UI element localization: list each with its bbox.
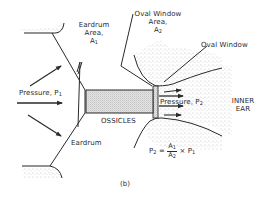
upper-canal-wall (20, 23, 64, 33)
ossicles-label: OSSICLES (101, 117, 136, 125)
oval-window-area-line2: Area, (130, 18, 186, 26)
pressure-formula: P2 = A1 A2 × P1 (149, 143, 195, 160)
ossicles (86, 90, 153, 113)
oval-window-label: Oval Window (201, 41, 248, 49)
eardrum-label: Eardrum (71, 139, 102, 147)
eardrum-area-symbol: A1 (72, 37, 116, 46)
incoming-pressure-arrows (17, 66, 62, 136)
oval-window-area-symbol: A2 (130, 26, 186, 35)
pressure-out-label: Pressure, P2 (160, 98, 203, 107)
inner-ear-label: INNER EAR (228, 97, 258, 113)
panel-label: (b) (120, 180, 130, 188)
inner-ear-line2: EAR (228, 105, 258, 113)
lower-canal-wall (22, 166, 62, 178)
area-ratio-fraction: A1 A2 (167, 143, 177, 160)
eardrum-area-line1: Eardrum (72, 21, 116, 29)
inner-ear-line1: INNER (228, 97, 258, 105)
pressure-in-label: Pressure, P1 (19, 89, 62, 98)
oval-window-area-line1: Oval Window (130, 10, 186, 18)
eardrum-area-label: Eardrum Area, A1 (72, 21, 116, 46)
oval-window-area-label: Oval Window Area, A2 (130, 10, 186, 35)
oval-window (153, 86, 158, 118)
eardrum-area-line2: Area, (72, 29, 116, 37)
